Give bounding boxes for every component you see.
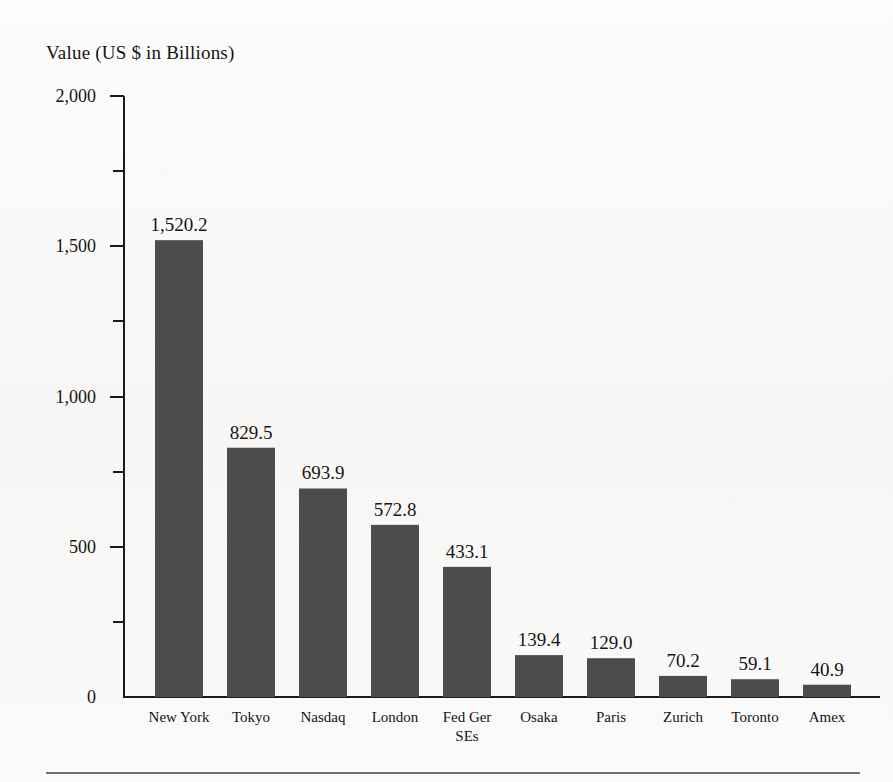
bar-value-label: 40.9 [810,659,843,680]
bar-value-label: 1,520.2 [151,214,208,235]
x-axis-category-label: Paris [596,709,626,725]
bar-value-label: 572.8 [374,499,417,520]
bar-value-label: 693.9 [302,462,345,483]
bar [227,448,275,697]
x-axis-category-label: Zurich [663,709,703,725]
x-axis-category-label: Toronto [731,709,778,725]
bar [731,679,779,697]
x-axis-category-label: Amex [809,709,846,725]
y-axis-tick-label: 2,000 [56,86,97,106]
chart-page: Value (US $ in Billions) 05001,0001,5002… [0,0,893,782]
bar [515,655,563,697]
bar [443,567,491,697]
bar-value-label: 829.5 [230,422,273,443]
x-axis-category-label: Osaka [520,709,558,725]
x-axis-category-label: Nasdaq [301,709,346,725]
bar [659,676,707,697]
x-axis-category-label: Fed Ger [443,709,492,725]
bar-value-label: 129.0 [590,632,633,653]
bar-value-label: 59.1 [738,653,771,674]
y-axis-tick-labels: 05001,0001,5002,000 [56,86,97,707]
y-axis-tick-label: 0 [87,687,96,707]
footer-rule [46,772,860,774]
bar [587,658,635,697]
bar-value-label: 70.2 [666,650,699,671]
x-axis-category-label: London [372,709,419,725]
bar [803,685,851,697]
bars-group [155,240,851,697]
bar [299,488,347,697]
x-axis-category-labels: New YorkTokyoNasdaqLondonFed GerSEsOsaka… [149,709,846,744]
bar-value-label: 139.4 [518,629,561,650]
y-axis-tick-label: 1,500 [56,236,97,256]
bar-chart: 05001,0001,5002,000 1,520.2829.5693.9572… [0,0,893,782]
x-axis-category-label: Tokyo [232,709,270,725]
x-axis-category-label: SEs [455,728,479,744]
y-axis-tick-label: 500 [69,537,96,557]
bar-value-label: 433.1 [446,541,489,562]
y-axis-ticks [110,96,124,622]
x-axis-category-label: New York [149,709,210,725]
bar [155,240,203,697]
bar [371,525,419,697]
y-axis-tick-label: 1,000 [56,387,97,407]
